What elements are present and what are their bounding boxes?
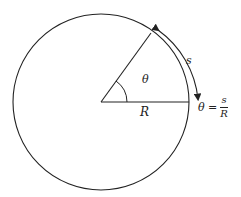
equation-numerator: s — [220, 95, 228, 106]
theta-label: θ — [142, 74, 149, 85]
radian-diagram: θ R s θ = s R — [0, 0, 241, 197]
radius-label: R — [140, 106, 149, 118]
arc-length-label: s — [186, 55, 192, 66]
equation-denominator: R — [220, 109, 228, 120]
angle-arc — [116, 81, 127, 102]
equation-fraction: s R — [220, 95, 228, 119]
radian-equation: θ = s R — [198, 95, 228, 119]
equation-lhs: θ = — [198, 101, 217, 114]
angled-radius-line — [101, 33, 151, 102]
